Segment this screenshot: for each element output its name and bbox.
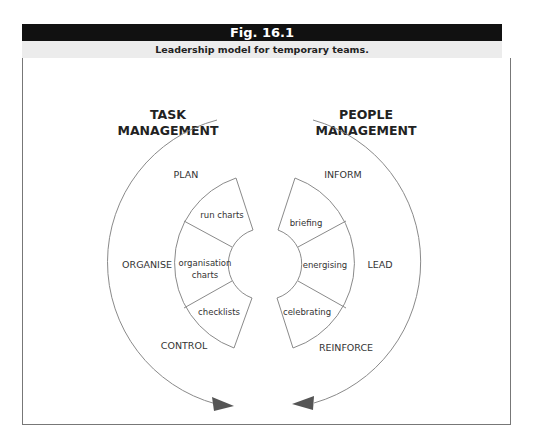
label-plan: PLAN bbox=[174, 169, 199, 180]
task-heading-line1: TASK bbox=[150, 107, 187, 122]
segment-energising: energising bbox=[303, 260, 348, 270]
segment-organisation-charts-line1: organisation bbox=[179, 258, 232, 268]
label-organise: ORGANISE bbox=[122, 259, 172, 270]
people-heading-line2: MANAGEMENT bbox=[315, 123, 416, 138]
task-heading-line2: MANAGEMENT bbox=[117, 123, 218, 138]
task-arrowhead-icon bbox=[212, 397, 234, 411]
segment-celebrating: celebrating bbox=[283, 307, 331, 317]
segment-checklists: checklists bbox=[198, 307, 240, 317]
people-heading-line1: PEOPLE bbox=[339, 107, 393, 122]
segment-organisation-charts-line2: charts bbox=[192, 270, 219, 280]
segment-briefing: briefing bbox=[290, 218, 323, 228]
leadership-diagram: TASK MANAGEMENT PEOPLE MANAGEMENT PLAN O… bbox=[0, 0, 536, 441]
segment-run-charts: run charts bbox=[200, 210, 244, 220]
label-lead: LEAD bbox=[367, 259, 392, 270]
label-reinforce: REINFORCE bbox=[319, 342, 373, 353]
label-control: CONTROL bbox=[161, 340, 208, 351]
label-inform: INFORM bbox=[324, 169, 362, 180]
people-arrowhead-icon bbox=[292, 396, 314, 410]
